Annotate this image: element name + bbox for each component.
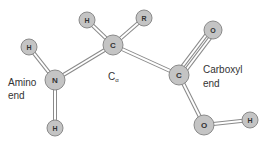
atom-symbol: H [26, 44, 31, 51]
atom-symbol: N [52, 76, 58, 85]
atom-h-hydroxyl: H [242, 112, 258, 128]
atom-h-alpha: H [79, 12, 95, 28]
amino-acid-structure-diagram: HNHCHRCOOH Amino end Cα Carboxyl end [0, 0, 265, 143]
carboxyl-end-label-line1: Carboxyl [203, 64, 242, 75]
atom-symbol: O [210, 27, 216, 34]
c-alpha-label: Cα [108, 71, 119, 83]
atom-o-hydroxyl: O [194, 115, 214, 135]
atom-symbol: H [52, 125, 57, 132]
atom-symbol: C [110, 41, 116, 50]
atom-c-alpha: C [103, 35, 123, 55]
atom-o-double: O [204, 21, 222, 39]
atom-symbol: O [201, 121, 207, 130]
atom-symbol: H [247, 117, 252, 124]
atom-r-group: R [136, 10, 152, 26]
atom-h-amino-bottom: H [47, 120, 63, 136]
amino-end-label-line2: end [8, 90, 25, 101]
atom-symbol: H [84, 17, 89, 24]
bond-c_alpha-c_carboxyl [113, 45, 179, 75]
c-alpha-label-subscript: α [115, 77, 119, 83]
carboxyl-end-label-line2: end [203, 78, 220, 89]
atom-symbol: R [141, 15, 146, 22]
c-alpha-label-main: C [108, 71, 115, 82]
atom-h-amino-top: H [21, 39, 37, 55]
atom-n: N [45, 70, 65, 90]
atom-symbol: C [176, 71, 182, 80]
amino-end-label-line1: Amino [8, 77, 37, 88]
atom-c-carboxyl: C [169, 65, 189, 85]
